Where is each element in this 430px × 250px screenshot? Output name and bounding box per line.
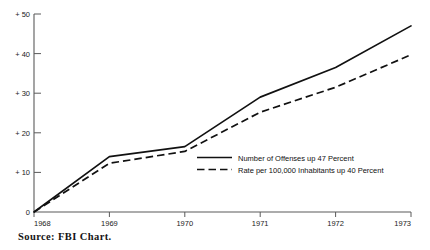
legend-label-rate-per-100000: Rate per 100,000 Inhabitants up 40 Perce…	[238, 166, 384, 175]
series-line-number-of-offenses	[34, 26, 411, 212]
y-tick-label-50: + 50	[15, 10, 30, 19]
y-tick-label-30: + 30	[15, 89, 30, 98]
x-axis-ticks	[34, 212, 411, 217]
source-note: Source: FBI Chart.	[18, 231, 112, 242]
y-axis-ticks	[34, 14, 41, 172]
y-tick-label-40: + 40	[15, 50, 30, 59]
y-tick-label-20: + 20	[15, 129, 30, 138]
chart-figure: . + 50 + 40 + 30 + 20 + 10 0	[0, 0, 430, 250]
y-tick-label-0: 0	[26, 208, 30, 217]
x-tick-label-1968: 1968	[34, 219, 51, 228]
chart-legend: Number of Offenses up 47 Percent Rate pe…	[197, 154, 384, 175]
x-tick-label-1972: 1972	[327, 219, 344, 228]
x-tick-label-1971: 1971	[252, 219, 269, 228]
series-line-rate-per-100000	[34, 55, 411, 212]
x-tick-label-1970: 1970	[176, 219, 193, 228]
x-tick-label-1973: 1973	[394, 219, 411, 228]
line-chart: + 50 + 40 + 30 + 20 + 10 0 1968 1969 197…	[0, 0, 430, 250]
x-tick-label-1969: 1969	[101, 219, 118, 228]
y-tick-label-10: + 10	[15, 168, 30, 177]
legend-label-number-of-offenses: Number of Offenses up 47 Percent	[238, 154, 355, 163]
